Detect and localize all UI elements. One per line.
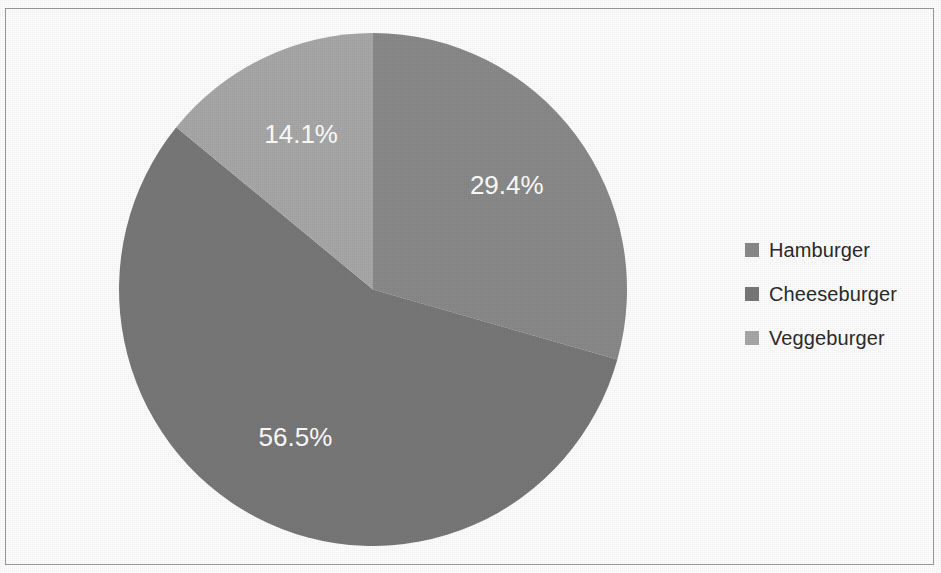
legend-swatch-icon-veggeburger (745, 331, 759, 345)
pie-chart-svg: 29.4%56.5%14.1% (119, 33, 627, 546)
legend-swatch-icon-cheeseburger (745, 287, 759, 301)
chart-legend: Hamburger Cheeseburger Veggeburger (745, 228, 935, 360)
chart-page: 29.4%56.5%14.1% Hamburger Cheeseburger V… (0, 0, 941, 573)
legend-label-cheeseburger: Cheeseburger (769, 283, 897, 306)
pie-slice-value-hamburger: 29.4% (470, 170, 544, 200)
legend-label-veggeburger: Veggeburger (769, 327, 885, 350)
legend-swatch-icon-hamburger (745, 243, 759, 257)
legend-item-cheeseburger[interactable]: Cheeseburger (745, 272, 935, 316)
pie-slice-group (119, 33, 627, 546)
pie-slice-value-veggeburger: 14.1% (264, 119, 338, 149)
legend-item-veggeburger[interactable]: Veggeburger (745, 316, 935, 360)
pie-chart-plot-area: 29.4%56.5%14.1% (119, 33, 627, 546)
pie-slice-value-cheeseburger: 56.5% (259, 422, 333, 452)
legend-label-hamburger: Hamburger (769, 239, 870, 262)
legend-item-hamburger[interactable]: Hamburger (745, 228, 935, 272)
